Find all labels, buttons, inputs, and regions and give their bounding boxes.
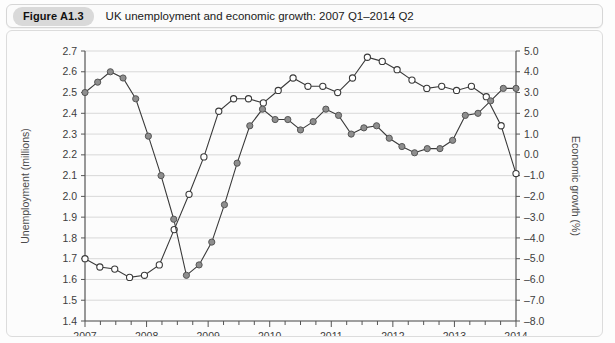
right-tick-label: –6.0 <box>524 273 545 285</box>
data-point-unemployment <box>141 272 147 278</box>
data-point-economic-growth <box>285 116 291 122</box>
data-point-economic-growth <box>399 143 405 149</box>
right-tick-label: –5.0 <box>524 252 545 264</box>
right-tick-label: 1.0 <box>524 128 539 140</box>
data-series-layer <box>82 54 519 280</box>
x-tick-label: 2009 <box>196 330 220 336</box>
data-point-unemployment <box>498 123 504 129</box>
data-point-unemployment <box>260 100 266 106</box>
figure-page: Figure A1.3 UK unemployment and economic… <box>0 0 615 343</box>
x-tick-label: 2007 <box>73 330 97 336</box>
figure-caption-bar: Figure A1.3 UK unemployment and economic… <box>6 4 603 28</box>
x-tick-label: 2008 <box>135 330 159 336</box>
right-tick-label: 2.0 <box>524 107 539 119</box>
right-tick-label: –7.0 <box>524 294 545 306</box>
data-point-economic-growth <box>120 75 126 81</box>
data-point-economic-growth <box>196 262 202 268</box>
data-point-economic-growth <box>209 239 215 245</box>
x-tick-label: 2013 <box>443 330 467 336</box>
right-tick-label: 0.0 <box>524 148 539 160</box>
right-tick-label: –1.0 <box>524 169 545 181</box>
data-point-unemployment <box>216 108 222 114</box>
chart-frame: 1.41.51.61.71.81.92.02.12.22.32.42.52.62… <box>6 30 603 337</box>
data-point-unemployment <box>453 87 459 93</box>
x-axis-ticks: 20072008200920102011201220132014 <box>73 321 528 336</box>
data-point-economic-growth <box>437 146 443 152</box>
data-point-economic-growth <box>171 216 177 222</box>
data-point-unemployment <box>305 83 311 89</box>
data-point-unemployment <box>97 264 103 270</box>
left-tick-label: 1.5 <box>62 294 77 306</box>
data-point-economic-growth <box>488 98 494 104</box>
data-point-economic-growth <box>500 85 506 91</box>
data-point-economic-growth <box>107 69 113 75</box>
data-point-unemployment <box>379 58 385 64</box>
data-point-economic-growth <box>386 135 392 141</box>
data-point-unemployment <box>320 83 326 89</box>
data-point-economic-growth <box>82 89 88 95</box>
data-point-economic-growth <box>361 125 367 131</box>
left-tick-label: 1.8 <box>62 232 77 244</box>
x-tick-label: 2014 <box>504 330 528 336</box>
data-point-unemployment <box>156 262 162 268</box>
data-point-economic-growth <box>234 160 240 166</box>
data-point-unemployment <box>245 96 251 102</box>
data-point-unemployment <box>394 67 400 73</box>
data-point-economic-growth <box>133 96 139 102</box>
data-point-economic-growth <box>411 150 417 156</box>
data-point-economic-growth <box>183 272 189 278</box>
axis-lines <box>85 51 516 321</box>
data-point-economic-growth <box>450 137 456 143</box>
data-point-unemployment <box>349 75 355 81</box>
data-point-unemployment <box>201 154 207 160</box>
data-point-unemployment <box>275 87 281 93</box>
data-point-unemployment <box>439 83 445 89</box>
right-tick-label: –8.0 <box>524 315 545 327</box>
right-tick-label: 4.0 <box>524 65 539 77</box>
left-tick-label: 2.2 <box>62 148 77 160</box>
series-line-economic-growth <box>85 72 516 276</box>
data-point-economic-growth <box>462 112 468 118</box>
data-point-unemployment <box>468 83 474 89</box>
data-point-economic-growth <box>513 85 519 91</box>
data-point-economic-growth <box>95 79 101 85</box>
right-axis-title: Economic growth (%) <box>570 136 582 236</box>
figure-title: UK unemployment and economic growth: 200… <box>106 10 414 22</box>
data-point-unemployment <box>82 256 88 262</box>
left-tick-label: 1.6 <box>62 273 77 285</box>
data-point-economic-growth <box>348 131 354 137</box>
data-point-economic-growth <box>221 202 227 208</box>
data-point-economic-growth <box>475 110 481 116</box>
chart-plot: 1.41.51.61.71.81.92.02.12.22.32.42.52.62… <box>7 31 602 336</box>
right-tick-label: –2.0 <box>524 190 545 202</box>
x-tick-label: 2010 <box>258 330 282 336</box>
data-point-economic-growth <box>335 112 341 118</box>
data-point-unemployment <box>513 170 519 176</box>
left-tick-label: 2.0 <box>62 190 77 202</box>
right-tick-label: –3.0 <box>524 211 545 223</box>
data-point-economic-growth <box>272 116 278 122</box>
x-tick-label: 2011 <box>320 330 343 336</box>
data-point-unemployment <box>335 89 341 95</box>
right-tick-label: 5.0 <box>524 45 539 57</box>
data-point-unemployment <box>290 75 296 81</box>
data-point-economic-growth <box>323 106 329 112</box>
left-axis-title: Unemployment (millions) <box>19 128 31 244</box>
data-point-economic-growth <box>145 133 151 139</box>
left-tick-label: 2.5 <box>62 86 77 98</box>
right-axis-ticks: –8.0–7.0–6.0–5.0–4.0–3.0–2.0–1.00.01.02.… <box>516 45 545 327</box>
left-tick-label: 2.6 <box>62 65 77 77</box>
data-point-economic-growth <box>259 106 265 112</box>
figure-number-badge: Figure A1.3 <box>13 7 94 26</box>
left-tick-label: 2.7 <box>62 45 77 57</box>
right-tick-label: –4.0 <box>524 232 545 244</box>
data-point-unemployment <box>112 266 118 272</box>
data-point-economic-growth <box>247 123 253 129</box>
left-tick-label: 1.9 <box>62 211 77 223</box>
grid-lines <box>85 51 516 321</box>
data-point-unemployment <box>186 191 192 197</box>
data-point-unemployment <box>126 274 132 280</box>
data-point-unemployment <box>424 85 430 91</box>
series-line-unemployment <box>85 57 516 277</box>
left-tick-label: 1.7 <box>62 252 77 264</box>
